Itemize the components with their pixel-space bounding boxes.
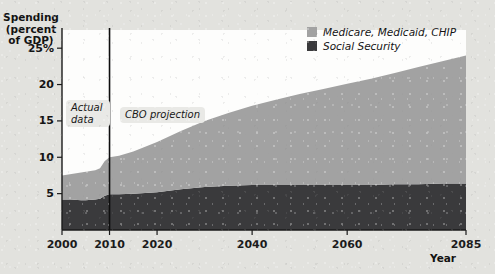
x-tick-label: 2085 [444,238,488,251]
x-tick-label: 2020 [135,238,179,251]
x-tick-label: 2000 [40,238,84,251]
legend-item-social-security: Social Security [307,40,456,52]
chart-legend: Medicare, Medicaid, CHIP Social Security [307,26,456,54]
x-tick-label: 2040 [230,238,274,251]
chart-root: Spending (percent of GDP) Year 25%201510… [0,0,495,274]
annotation-actual-data: Actual data [66,100,110,127]
stacked-areas [62,55,466,230]
legend-label-medicare: Medicare, Medicaid, CHIP [323,26,456,38]
y-tick-label: 5 [14,187,54,200]
annotation-cbo-projection: CBO projection [120,107,205,123]
y-axis-title-line-1: Spending [2,12,60,24]
y-tick-label: 20 [14,78,54,91]
y-tick-label: 10 [14,151,54,164]
y-tick-label: 15 [14,114,54,127]
legend-label-social-security: Social Security [323,40,401,52]
x-tick-label: 2010 [88,238,132,251]
legend-swatch-social-security [307,41,317,51]
annotation-actual-line-1: Actual [71,102,105,114]
area-medicare-medicaid-chip [62,55,466,200]
x-axis-title: Year [430,252,456,264]
y-tick-label: 25% [14,42,54,55]
x-tick-label: 2060 [325,238,369,251]
legend-item-medicare: Medicare, Medicaid, CHIP [307,26,456,38]
legend-swatch-medicare [307,27,317,37]
annotation-actual-line-2: data [71,114,105,126]
